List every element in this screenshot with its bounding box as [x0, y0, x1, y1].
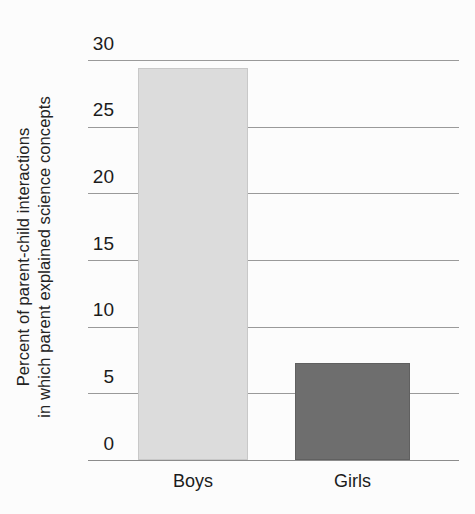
y-tick-label-5: 5 — [68, 367, 114, 386]
x-category-label-girls: Girls — [295, 472, 410, 490]
y-tick-label-20: 20 — [68, 167, 114, 186]
gridline-30 — [88, 60, 459, 61]
y-axis-title-line-2: in which parent explained science concep… — [34, 96, 55, 418]
x-category-label-boys: Boys — [138, 472, 248, 490]
y-tick-label-0: 0 — [68, 434, 114, 453]
axis-baseline — [88, 460, 459, 461]
y-tick-label-15: 15 — [68, 234, 114, 253]
bar-boys[interactable] — [138, 68, 248, 460]
bar-girls[interactable] — [295, 363, 410, 460]
y-tick-label-30: 30 — [68, 34, 114, 53]
y-axis-title: Percent of parent-child interactions in … — [1, 27, 67, 487]
plot-area — [88, 60, 459, 460]
y-axis-title-line-1: Percent of parent-child interactions — [13, 128, 34, 387]
y-tick-label-25: 25 — [68, 100, 114, 119]
y-tick-label-10: 10 — [68, 300, 114, 319]
bar-chart-figure: Percent of parent-child interactions in … — [0, 0, 475, 514]
